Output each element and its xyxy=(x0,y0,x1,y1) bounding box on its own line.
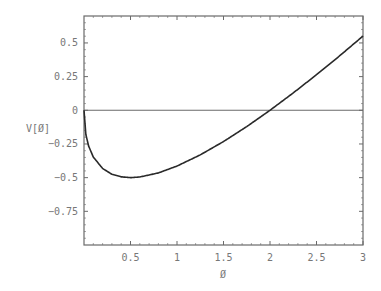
x-tick-label: 1 xyxy=(174,252,180,263)
y-tick-label: 0 xyxy=(72,105,78,116)
x-tick-label: 2.5 xyxy=(307,252,325,263)
axis-ticks: 0.511.522.530.50.250−0.25−0.5−0.75 xyxy=(48,16,366,263)
y-axis-label: V[Ø] xyxy=(26,123,50,134)
x-axis-label: Ø xyxy=(220,269,226,280)
x-tick-label: 1.5 xyxy=(214,252,232,263)
y-tick-label: −0.25 xyxy=(48,138,78,149)
data-series-line xyxy=(84,36,363,178)
y-tick-label: 0.5 xyxy=(60,37,78,48)
y-tick-label: 0.25 xyxy=(54,71,78,82)
y-tick-label: −0.5 xyxy=(54,172,78,183)
x-tick-label: 3 xyxy=(360,252,366,263)
x-tick-label: 0.5 xyxy=(121,252,139,263)
y-tick-label: −0.75 xyxy=(48,206,78,217)
plot-frame xyxy=(84,16,363,245)
chart: 0.511.522.530.50.250−0.25−0.5−0.75 Ø V[Ø… xyxy=(0,0,381,291)
x-tick-label: 2 xyxy=(267,252,273,263)
